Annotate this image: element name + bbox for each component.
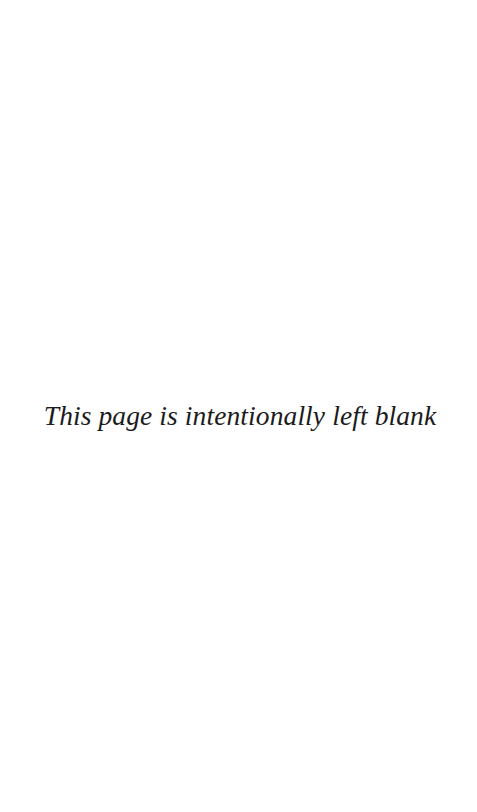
- blank-page: This page is intentionally left blank: [0, 0, 477, 812]
- blank-area-below-notice: [0, 436, 477, 812]
- blank-area-above-notice: [0, 0, 477, 396]
- intentionally-blank-notice-text: This page is intentionally left blank: [41, 400, 437, 432]
- intentionally-blank-notice: This page is intentionally left blank: [0, 396, 477, 436]
